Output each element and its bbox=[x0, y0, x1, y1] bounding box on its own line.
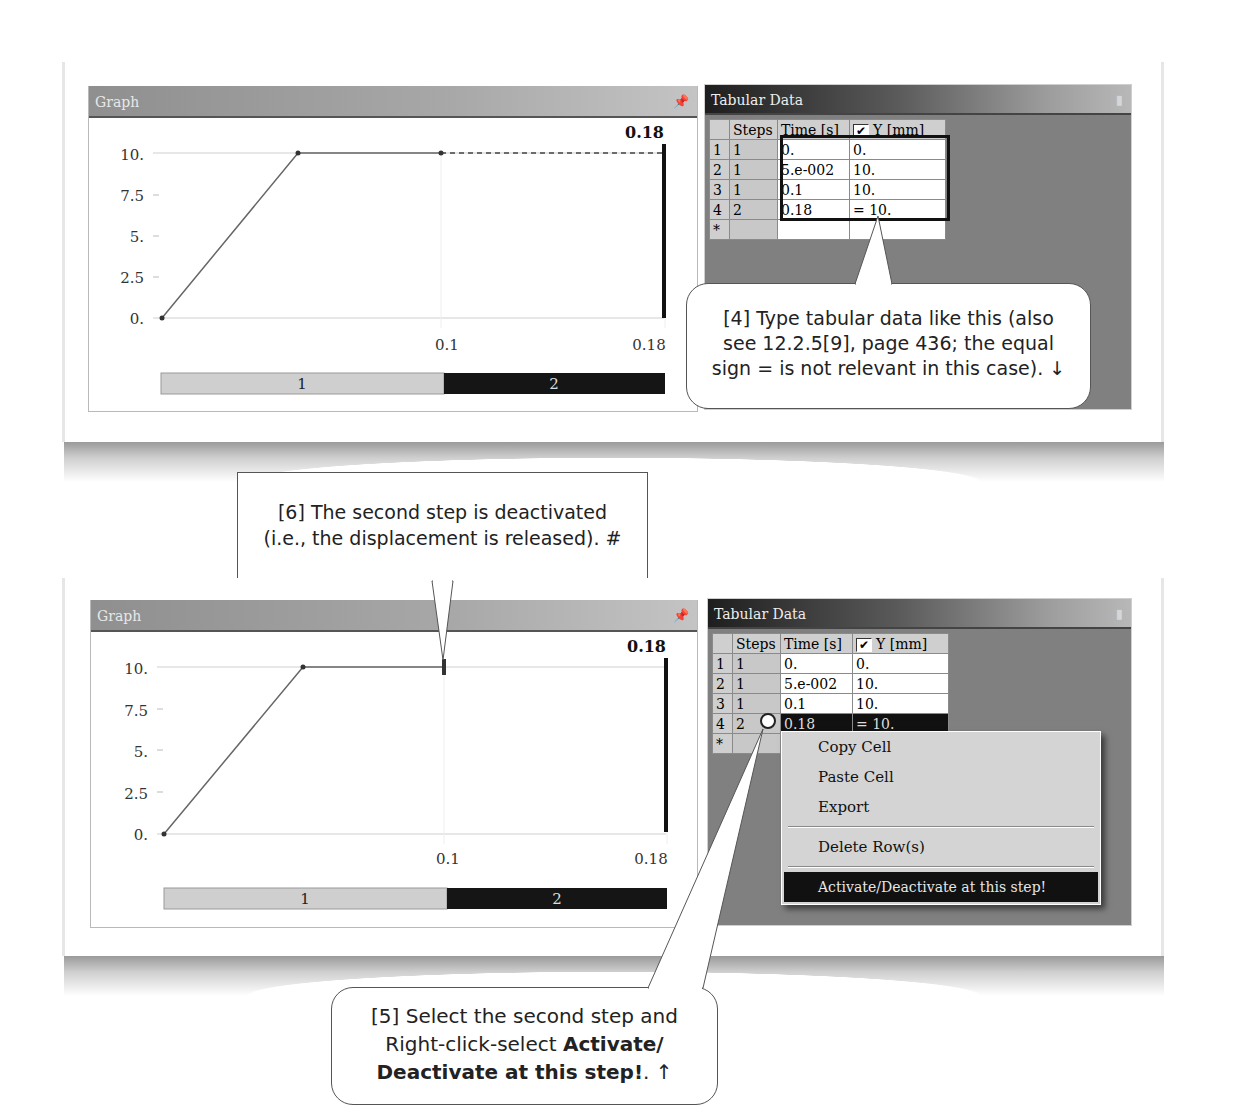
graph-title-bar: Graph 📌 bbox=[91, 600, 697, 632]
tabular-title-bar: Tabular Data ▮ bbox=[708, 599, 1131, 629]
top-graph-chart: 10. 7.5 5. 2.5 0. 0.1 0.18 0.18 1 2 bbox=[89, 118, 699, 412]
tabular-title: Tabular Data bbox=[711, 92, 803, 108]
selection-circle-marker bbox=[760, 713, 776, 729]
svg-text:0.18: 0.18 bbox=[632, 336, 665, 354]
svg-text:10.: 10. bbox=[124, 660, 148, 678]
menu-item-activate-deactivate[interactable]: Activate/Deactivate at this step! bbox=[784, 872, 1098, 902]
table-row: 1 1 0. 0. bbox=[713, 654, 949, 674]
menu-item-delete-rows[interactable]: Delete Row(s) bbox=[782, 832, 1100, 862]
graph-title-bar: Graph 📌 bbox=[89, 86, 697, 118]
col-header-time[interactable]: Time [s] bbox=[781, 634, 853, 654]
deactivation-marker bbox=[442, 659, 446, 675]
svg-text:1: 1 bbox=[297, 375, 307, 393]
svg-text:0.1: 0.1 bbox=[436, 850, 460, 868]
pin-icon[interactable]: 📌 bbox=[673, 86, 689, 118]
svg-text:5.: 5. bbox=[134, 743, 148, 761]
new-row: * bbox=[710, 220, 946, 240]
graph-title: Graph bbox=[97, 608, 141, 624]
pin-icon[interactable]: ▮ bbox=[1116, 599, 1123, 629]
y-tick-10: 10. bbox=[120, 146, 144, 164]
pin-icon[interactable]: 📌 bbox=[673, 600, 689, 632]
svg-text:2.5: 2.5 bbox=[120, 269, 144, 287]
callout-4: [4] Type tabular data like this (also se… bbox=[686, 283, 1091, 409]
pin-icon[interactable]: ▮ bbox=[1116, 85, 1123, 115]
bottom-graph-chart: 10. 7.5 5. 2.5 0. 0.1 0.18 0.18 1 2 bbox=[91, 632, 699, 928]
svg-text:2: 2 bbox=[552, 890, 562, 908]
bottom-graph-panel: Graph 📌 10. 7.5 5. 2.5 0. 0.1 0.18 0.18 … bbox=[90, 600, 698, 928]
svg-text:5.: 5. bbox=[130, 228, 144, 246]
svg-text:0.18: 0.18 bbox=[627, 637, 666, 656]
svg-text:0.1: 0.1 bbox=[435, 336, 459, 354]
menu-separator bbox=[788, 826, 1094, 828]
y-column-checkbox[interactable]: ✔ bbox=[856, 638, 872, 652]
svg-text:7.5: 7.5 bbox=[124, 702, 148, 720]
callout-6: [6] The second step is deactivated (i.e.… bbox=[237, 472, 648, 582]
svg-text:2: 2 bbox=[549, 375, 559, 393]
menu-item-paste-cell[interactable]: Paste Cell bbox=[782, 762, 1100, 792]
tabular-title-bar: Tabular Data ▮ bbox=[705, 85, 1131, 115]
tabular-title: Tabular Data bbox=[714, 606, 806, 622]
svg-text:1: 1 bbox=[300, 890, 310, 908]
menu-item-export[interactable]: Export bbox=[782, 792, 1100, 822]
svg-text:2.5: 2.5 bbox=[124, 785, 148, 803]
context-menu: Copy Cell Paste Cell Export Delete Row(s… bbox=[781, 731, 1101, 905]
table-row: 3 1 0.1 10. bbox=[713, 694, 949, 714]
svg-text:0.: 0. bbox=[134, 826, 148, 844]
graph-title: Graph bbox=[95, 94, 139, 110]
svg-text:7.5: 7.5 bbox=[120, 187, 144, 205]
corner-header bbox=[710, 120, 730, 140]
table-row: 2 1 5.e-002 10. bbox=[713, 674, 949, 694]
current-time-label: 0.18 bbox=[625, 123, 664, 142]
svg-text:0.18: 0.18 bbox=[634, 850, 667, 868]
callout-5: [5] Select the second step and Right-cli… bbox=[331, 987, 718, 1105]
svg-text:0.: 0. bbox=[130, 310, 144, 328]
menu-item-copy-cell[interactable]: Copy Cell bbox=[782, 732, 1100, 762]
col-header-steps[interactable]: Steps bbox=[730, 120, 778, 140]
col-header-steps[interactable]: Steps bbox=[733, 634, 781, 654]
top-graph-panel: Graph 📌 10. 7.5 5. 2.5 0. 0.1 0.18 0.18 bbox=[88, 86, 698, 412]
data-highlight-box bbox=[780, 135, 950, 221]
col-header-y[interactable]: ✔Y [mm] bbox=[853, 634, 949, 654]
menu-separator bbox=[788, 866, 1094, 868]
